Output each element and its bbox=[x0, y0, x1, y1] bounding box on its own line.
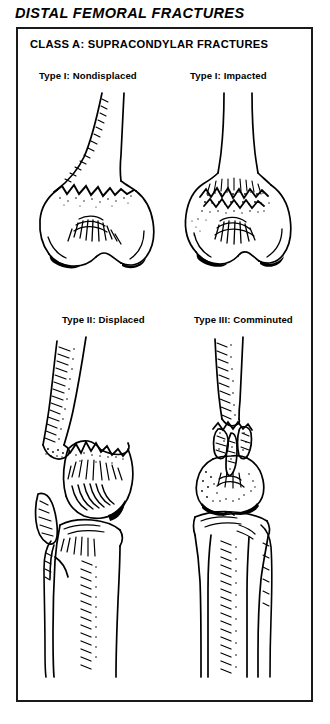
figure-page: DISTAL FEMORAL FRACTURES CLASS A: SUPRAC… bbox=[0, 0, 330, 724]
figure-box: CLASS A: SUPRACONDYLAR FRACTURES Type I:… bbox=[16, 27, 313, 702]
panel-label-type-1-impacted: Type I: Impacted bbox=[190, 70, 267, 81]
illustration-knee-ap-comminuted bbox=[173, 329, 313, 679]
panel-label-type-1-nondisplaced: Type I: Nondisplaced bbox=[39, 70, 137, 81]
panel-label-type-3-comminuted: Type III: Comminuted bbox=[194, 314, 293, 325]
illustration-distal-femur-nondisplaced bbox=[24, 91, 174, 271]
class-heading: CLASS A: SUPRACONDYLAR FRACTURES bbox=[30, 38, 268, 50]
panel-label-type-2-displaced: Type II: Displaced bbox=[62, 314, 145, 325]
illustration-knee-lateral-displaced bbox=[24, 329, 179, 679]
illustration-distal-femur-impacted bbox=[170, 91, 315, 271]
page-title: DISTAL FEMORAL FRACTURES bbox=[15, 5, 245, 21]
